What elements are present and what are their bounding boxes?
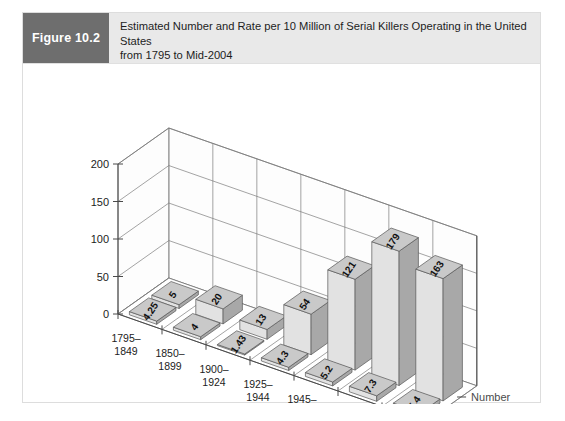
figure-card: Figure 10.2 Estimated Number and Rate pe… [22,12,541,403]
chart-plot-area: 050100150200 52013541211791634.2541.434.… [23,64,540,404]
serial-killers-3d-bar-chart: 050100150200 52013541211791634.2541.434.… [23,64,540,404]
figure-title-line-2: from 1795 to Mid-2004 [120,48,530,63]
category-label-0: 1795–1849 [111,332,140,357]
figure-label: Figure 10.2 [23,13,109,63]
category-label-4: 1945–1979 [287,393,316,404]
y-axis-tick-label: 0 [103,308,109,320]
y-axis-tick-label: 150 [91,196,109,208]
figure-title-line-1: Estimated Number and Rate per 10 Million… [120,19,530,48]
y-axis-tick-label: 200 [91,158,109,170]
depth-axis-label-number: Number [471,391,510,403]
bar-number-5 [372,228,419,386]
figure-header: Figure 10.2 Estimated Number and Rate pe… [23,13,540,64]
y-axis-tick-label: 100 [91,233,109,245]
y-axis-tick-label: 50 [97,271,109,283]
category-label-2: 1900–1924 [199,363,228,388]
category-label-1: 1850–1899 [155,347,184,372]
category-label-3: 1925–1944 [243,378,272,403]
bar-number-6 [416,255,463,401]
figure-title: Estimated Number and Rate per 10 Million… [109,13,540,63]
